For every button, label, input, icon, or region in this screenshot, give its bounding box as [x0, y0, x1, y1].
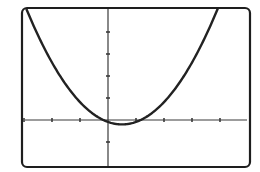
parabola-curve [21, 0, 225, 124]
axes [24, 9, 247, 166]
graph-window-frame [22, 8, 250, 167]
graph-canvas [0, 0, 260, 172]
calculator-graph-screen: Graphing-calculator window showing a upw… [0, 0, 260, 172]
